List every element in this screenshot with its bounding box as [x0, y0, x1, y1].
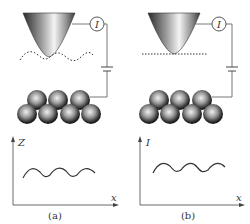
- graph-b: I x: [138, 136, 245, 207]
- panel-a: I Z x (a): [11, 13, 119, 221]
- y-axis-label: Z: [17, 137, 26, 148]
- atom-lattice: [17, 90, 101, 124]
- y-axis-arrow-icon: [138, 136, 142, 142]
- battery-icon: [101, 67, 113, 73]
- panel-b: I I x (b): [138, 13, 245, 221]
- caption-a: (a): [48, 210, 62, 221]
- battery-icon: [226, 67, 238, 73]
- circuit-wire: [212, 73, 232, 97]
- stm-tip-icon: [148, 13, 200, 54]
- x-axis-arrow-icon: [113, 203, 119, 207]
- tip-trajectory-dotted: [20, 52, 93, 61]
- graph-curve: [153, 163, 225, 173]
- y-axis-label: I: [145, 137, 151, 148]
- graph-curve: [23, 168, 95, 178]
- atom-lattice: [139, 90, 223, 124]
- y-axis-arrow-icon: [11, 136, 15, 142]
- x-axis-arrow-icon: [239, 203, 245, 207]
- x-axis-label: x: [236, 192, 242, 203]
- x-axis-label: x: [111, 192, 117, 203]
- graph-a: Z x: [11, 136, 119, 207]
- circuit-wire: [90, 73, 107, 97]
- circuit-wire: [104, 24, 107, 67]
- stm-diagram: I Z x (a): [0, 0, 250, 224]
- ammeter-icon: I: [90, 17, 104, 31]
- caption-b: (b): [181, 210, 195, 221]
- circuit-wire: [226, 24, 232, 67]
- stm-tip-icon: [23, 13, 75, 57]
- ammeter-icon: I: [212, 17, 226, 31]
